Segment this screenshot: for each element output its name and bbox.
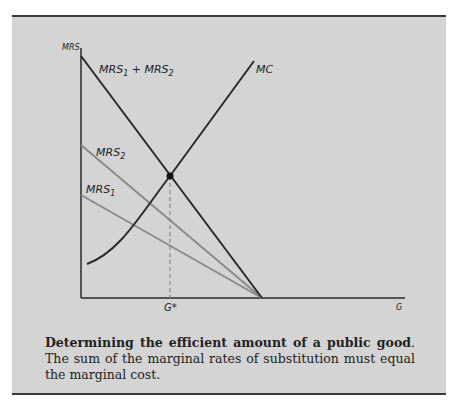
mrs1-label: MRS1 — [86, 183, 115, 198]
caption-title: Determining the efficient amount of a pu… — [45, 335, 411, 350]
mrs2-line — [81, 145, 262, 298]
y-axis-label: MRS — [62, 43, 80, 52]
mrs2-label: MRS2 — [96, 146, 125, 161]
mrs1-line — [81, 195, 262, 298]
x-axis-label: G — [396, 303, 402, 312]
equilibrium-point — [167, 173, 174, 180]
figure-caption: Determining the efficient amount of a pu… — [45, 335, 415, 383]
mrs-sum-label: MRS1 + MRS2 — [99, 63, 174, 78]
mc-label: MC — [256, 63, 273, 76]
g-star-label: G* — [164, 302, 177, 313]
